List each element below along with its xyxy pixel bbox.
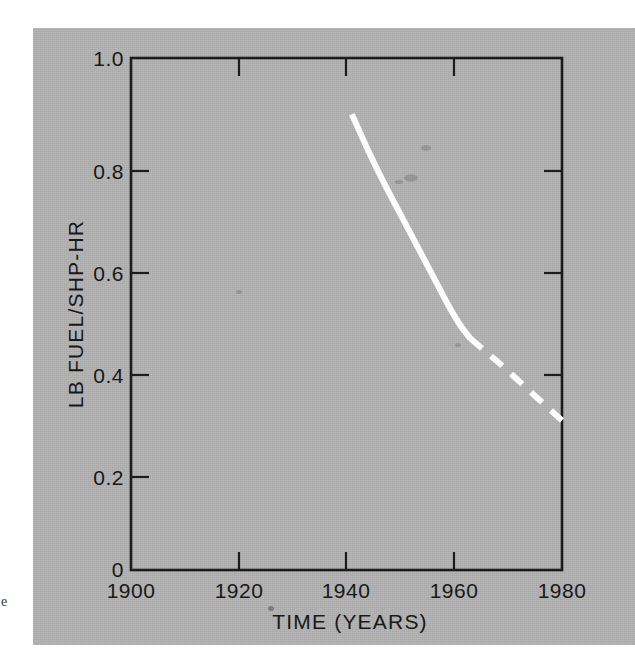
y-axis-ticks-left bbox=[131, 171, 149, 477]
plot-frame bbox=[131, 58, 562, 570]
series-line-projected bbox=[470, 339, 562, 421]
y-tick-label-06: 0.6 bbox=[93, 262, 124, 285]
series-line-historical bbox=[352, 114, 471, 338]
x-axis-title: TIME (YEARS) bbox=[272, 610, 428, 633]
y-tick-label-02: 0.2 bbox=[93, 466, 124, 489]
scan-blemishes bbox=[236, 145, 461, 347]
x-axis-ticks-bottom bbox=[239, 552, 454, 570]
x-axis-ticks-top bbox=[239, 58, 454, 76]
x-tick-label-1920: 1920 bbox=[215, 579, 264, 602]
y-tick-label-1: 1.0 bbox=[93, 47, 124, 70]
y-tick-label-0: 0 bbox=[112, 558, 124, 581]
y-axis-title: LB FUEL/SHP-HR bbox=[64, 220, 87, 408]
y-axis-ticks-right bbox=[544, 171, 562, 375]
x-tick-label-1960: 1960 bbox=[430, 579, 479, 602]
y-tick-label-04: 0.4 bbox=[93, 364, 124, 387]
fuel-consumption-chart: 1.0 0.8 0.6 0.4 0.2 0 1900 1920 1940 196… bbox=[0, 0, 635, 667]
x-tick-label-1900: 1900 bbox=[107, 579, 156, 602]
x-tick-label-1940: 1940 bbox=[322, 579, 371, 602]
x-tick-label-1980: 1980 bbox=[538, 579, 587, 602]
plate-ink-speck bbox=[268, 606, 274, 611]
y-tick-label-08: 0.8 bbox=[93, 160, 124, 183]
